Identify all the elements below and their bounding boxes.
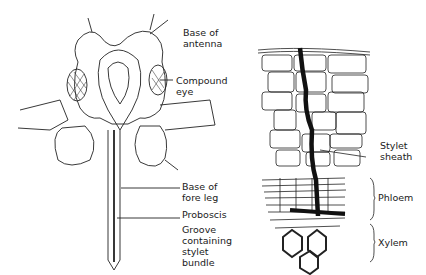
label-phloem: Phloem (378, 192, 413, 203)
label-base-of-fore-leg: Base of fore leg (182, 181, 218, 203)
label-compound-eye: Compound eye (176, 75, 228, 97)
plant-tissue-drawing (258, 48, 375, 274)
label-proboscis: Proboscis (182, 209, 227, 220)
label-xylem: Xylem (378, 237, 408, 248)
label-groove-stylet-bundle: Groove containing stylet bundle (182, 224, 232, 268)
label-base-of-antenna: Base of antenna (183, 27, 222, 49)
label-stylet-sheath: Stylet sheath (380, 140, 412, 162)
